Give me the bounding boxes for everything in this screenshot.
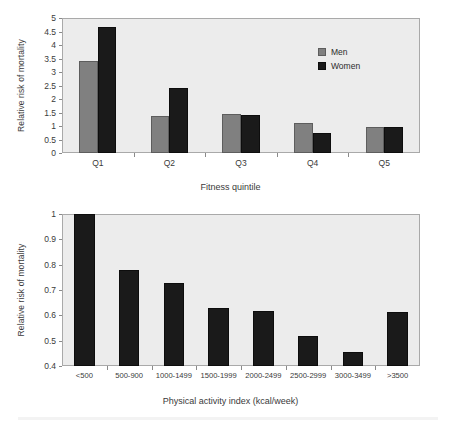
bar — [343, 352, 364, 366]
bar — [253, 311, 274, 366]
y-tick-label: 0.7 — [44, 285, 56, 295]
y-tick-label: 2.5 — [44, 81, 56, 91]
x-tick-mark — [134, 153, 135, 157]
chart-panel-fitness-quintile: Relative risk of mortality 00.511.522.53… — [0, 0, 461, 200]
bar — [294, 123, 313, 153]
chart-panel-physical-activity: Relative risk of mortality 0.40.50.60.70… — [0, 200, 461, 426]
x-axis-title: Physical activity index (kcal/week) — [0, 396, 461, 406]
y-tick-mark — [59, 72, 62, 73]
x-tick-label: Q3 — [235, 158, 246, 168]
legend: Men Women — [318, 46, 360, 74]
legend-label-men: Men — [331, 47, 348, 57]
y-tick-label: 0.8 — [44, 260, 56, 270]
x-tick-label: 2500-2999 — [290, 371, 326, 380]
bar — [387, 312, 408, 366]
x-axis-title: Fitness quintile — [0, 182, 461, 192]
y-tick-label: 0.5 — [44, 135, 56, 145]
x-tick-mark — [152, 366, 153, 370]
y-tick-mark — [59, 86, 62, 87]
bar — [222, 114, 241, 153]
y-tick-label: 0 — [51, 148, 56, 158]
y-tick-mark — [59, 214, 62, 215]
bar — [313, 133, 332, 153]
y-axis-tick-labels: 00.511.522.533.544.55 — [0, 0, 62, 163]
y-tick-label: 1.5 — [44, 108, 56, 118]
y-tick-mark — [59, 99, 62, 100]
y-tick-label: 2 — [51, 94, 56, 104]
y-tick-label: 1 — [51, 121, 56, 131]
bar — [169, 88, 188, 153]
bar — [151, 116, 170, 153]
x-tick-label: Q1 — [92, 158, 103, 168]
y-tick-mark — [59, 45, 62, 46]
plot-area — [62, 214, 420, 366]
bar — [241, 115, 260, 153]
bar — [164, 283, 185, 366]
y-tick-mark — [59, 113, 62, 114]
y-tick-mark — [59, 341, 62, 342]
x-tick-mark — [205, 153, 206, 157]
legend-swatch-men-icon — [318, 48, 326, 56]
y-tick-mark — [59, 59, 62, 60]
x-tick-mark — [331, 366, 332, 370]
x-tick-mark — [348, 153, 349, 157]
x-tick-mark — [107, 366, 108, 370]
y-tick-mark — [59, 153, 62, 154]
y-tick-mark — [59, 18, 62, 19]
bar — [79, 61, 98, 153]
x-tick-label: Q4 — [307, 158, 318, 168]
y-tick-mark — [59, 32, 62, 33]
x-tick-mark — [375, 366, 376, 370]
y-tick-label: 3.5 — [44, 54, 56, 64]
x-tick-mark — [241, 366, 242, 370]
x-tick-label: 3000-3499 — [335, 371, 371, 380]
y-tick-mark — [59, 265, 62, 266]
x-tick-label: 2000-2499 — [245, 371, 281, 380]
y-tick-mark — [59, 366, 62, 367]
x-tick-label: 1000-1499 — [156, 371, 192, 380]
bar — [384, 127, 403, 153]
y-tick-label: 3 — [51, 67, 56, 77]
scan-artifact — [18, 417, 438, 420]
y-tick-label: 0.5 — [44, 336, 56, 346]
x-tick-label: <500 — [76, 371, 93, 380]
y-tick-mark — [59, 140, 62, 141]
y-tick-label: 4 — [51, 40, 56, 50]
x-tick-label: >3500 — [387, 371, 408, 380]
y-axis-tick-labels: 0.40.50.60.70.80.91 — [0, 200, 62, 376]
y-tick-label: 0.6 — [44, 310, 56, 320]
bar — [119, 270, 140, 366]
bar — [298, 336, 319, 366]
bar — [98, 27, 117, 153]
legend-item-women: Women — [318, 60, 360, 71]
legend-label-women: Women — [331, 61, 360, 71]
y-tick-label: 5 — [51, 13, 56, 23]
x-tick-mark — [196, 366, 197, 370]
bar — [366, 127, 385, 153]
y-tick-mark — [59, 315, 62, 316]
y-tick-mark — [59, 239, 62, 240]
x-tick-mark — [277, 153, 278, 157]
y-tick-label: 0.9 — [44, 234, 56, 244]
x-tick-label: Q2 — [164, 158, 175, 168]
bar — [74, 214, 95, 366]
x-tick-label: 500-900 — [115, 371, 143, 380]
bar — [208, 308, 229, 366]
x-tick-label: 1500-1999 — [200, 371, 236, 380]
y-tick-mark — [59, 126, 62, 127]
legend-item-men: Men — [318, 46, 360, 57]
legend-swatch-women-icon — [318, 62, 326, 70]
x-tick-mark — [286, 366, 287, 370]
y-tick-mark — [59, 290, 62, 291]
y-tick-label: 4.5 — [44, 27, 56, 37]
x-tick-label: Q5 — [379, 158, 390, 168]
y-tick-label: 1 — [51, 209, 56, 219]
y-tick-label: 0.4 — [44, 361, 56, 371]
figure-two-bar-charts: Relative risk of mortality 00.511.522.53… — [0, 0, 461, 426]
